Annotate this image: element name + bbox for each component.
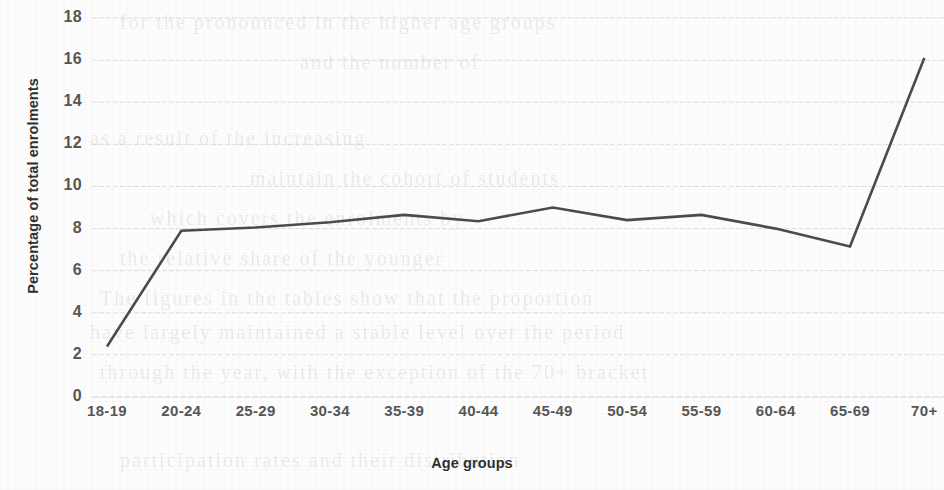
x-axis-tick-label: 30-34 (310, 402, 350, 419)
x-axis-tick-label: 35-39 (384, 402, 424, 419)
x-axis-tick-label: 40-44 (459, 402, 499, 419)
x-axis-tick-label: 20-24 (161, 402, 201, 419)
x-axis-title: Age groups (0, 455, 944, 471)
x-axis-tick-label: 65-69 (830, 402, 870, 419)
x-axis-tick-label: 50-54 (607, 402, 647, 419)
y-axis-title: Percentage of total enrolments (25, 61, 41, 311)
line-chart: 181614121086420 18-1920-2425-2930-3435-3… (0, 0, 944, 490)
x-axis-tick-label: 45-49 (533, 402, 573, 419)
y-axis-tick-label: 0 (20, 387, 82, 405)
series-polyline (107, 58, 924, 347)
x-axis-tick-label: 70+ (911, 402, 937, 419)
x-axis-tick-label: 55-59 (681, 402, 721, 419)
y-axis-tick-label: 2 (20, 345, 82, 363)
x-axis-tick-label: 60-64 (756, 402, 796, 419)
data-series-line (107, 58, 924, 347)
chart-svg (92, 0, 944, 490)
gridlines (92, 18, 944, 397)
x-axis-tick-label: 25-29 (236, 402, 276, 419)
y-axis-tick-label: 18 (20, 8, 82, 26)
plot-area (92, 0, 944, 490)
x-axis-tick-label: 18-19 (87, 402, 127, 419)
